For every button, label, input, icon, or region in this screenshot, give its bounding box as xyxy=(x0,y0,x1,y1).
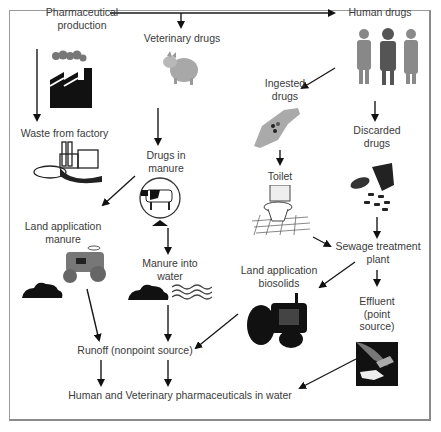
label-line: drugs xyxy=(255,90,315,103)
node-sewage-plant: Sewage treatment plant xyxy=(333,240,423,265)
manure-pile-icon xyxy=(20,280,64,300)
cow-icon xyxy=(138,176,182,228)
node-land-app-manure: Land application manure xyxy=(18,220,108,245)
node-discarded-drugs: Discarded drugs xyxy=(345,124,409,149)
node-pharma-production: Pharmaceutical production xyxy=(30,6,134,31)
label-line: (point xyxy=(352,308,402,321)
arrow-toilet-to-sewage xyxy=(313,237,330,246)
label-line: Discarded xyxy=(345,124,409,137)
label-line: Manure into xyxy=(138,257,202,270)
arrow-biosolids-to-runoff xyxy=(196,314,238,348)
pig-icon xyxy=(162,48,200,86)
water-waves-icon xyxy=(172,283,212,301)
node-effluent: Effluent (point source) xyxy=(352,295,402,333)
pill-bottle-icon xyxy=(348,163,398,213)
node-runoff: Runoff (nonpoint source) xyxy=(70,344,200,357)
node-drugs-in-manure: Drugs in manure xyxy=(136,149,196,174)
label-line: source) xyxy=(352,320,402,333)
label-line: plant xyxy=(333,253,423,266)
arrow-manure-to-landapp xyxy=(103,176,135,205)
toilet-icon xyxy=(252,185,312,235)
lawn-tractor-icon xyxy=(58,244,114,286)
label-line: production xyxy=(30,19,134,32)
arrow-sewage-to-biosolids xyxy=(320,262,355,287)
arrow-effluent-to-final xyxy=(300,359,356,388)
node-human-drugs: Human drugs xyxy=(340,6,420,19)
node-land-app-biosolids: Land application biosolids xyxy=(234,264,324,289)
label-line: Land application xyxy=(234,264,324,277)
node-final-water: Human and Veterinary pharmaceuticals in … xyxy=(60,389,300,402)
label-line: biosolids xyxy=(234,277,324,290)
factory-smoke-icon xyxy=(48,50,94,108)
effluent-pipe-icon xyxy=(356,342,398,386)
farm-tractor-icon xyxy=(243,291,309,349)
hand-with-pills-icon xyxy=(248,104,304,148)
label-line: Sewage treatment xyxy=(333,240,423,253)
node-ingested-drugs: Ingested drugs xyxy=(255,77,315,102)
label-line: Land application xyxy=(18,220,108,233)
node-toilet: Toilet xyxy=(260,170,300,183)
node-manure-into-water: Manure into water xyxy=(138,257,202,282)
label-line: manure xyxy=(136,162,196,175)
elderly-people-icon xyxy=(352,26,424,88)
label-line: Pharmaceutical xyxy=(30,6,134,19)
node-veterinary-drugs: Veterinary drugs xyxy=(140,32,224,45)
label-line: Effluent xyxy=(352,295,402,308)
label-line: Ingested xyxy=(255,77,315,90)
industrial-plant-pipe-icon xyxy=(32,140,104,184)
manure-pile-icon-2 xyxy=(126,280,170,302)
label-line: drugs xyxy=(345,137,409,150)
label-line: Drugs in xyxy=(136,149,196,162)
node-waste-factory: Waste from factory xyxy=(12,127,117,140)
arrow-landapp-to-runoff xyxy=(87,289,99,340)
